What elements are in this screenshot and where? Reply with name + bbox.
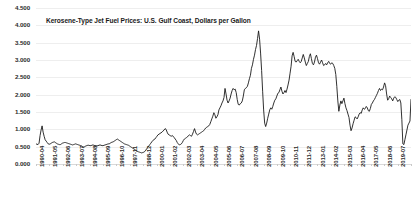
x-axis-tick-label: 2013-01 [320, 146, 326, 167]
y-axis-tick-label: 3.500 [2, 39, 30, 46]
x-axis-tick-label: 2010-11 [293, 146, 299, 167]
y-axis-tick-label: 0.500 [2, 143, 30, 150]
x-axis-tick-mark [371, 164, 372, 166]
x-axis-tick-mark [116, 164, 117, 166]
x-axis-tick-mark [344, 164, 345, 166]
x-axis-tick-label: 1993-07 [79, 146, 85, 167]
x-axis-tick-label: 2018-06 [387, 146, 393, 167]
x-axis-tick-label: 2002-03 [186, 146, 192, 167]
x-axis-tick-mark [49, 164, 50, 166]
x-axis-tick-mark [76, 164, 77, 166]
x-axis-tick-mark [36, 164, 37, 166]
x-axis-tick-label: 2003-04 [199, 146, 205, 167]
x-axis-tick-label: 1997-11 [132, 146, 138, 167]
y-axis-tick-label: 0.000 [2, 160, 30, 167]
jet-fuel-price-chart: 4.5004.0003.5003.0002.5002.0001.5001.000… [0, 0, 413, 216]
x-axis-tick-label: 1991-05 [52, 146, 58, 167]
x-axis-tick-mark [357, 164, 358, 166]
x-axis-tick-mark [143, 164, 144, 166]
y-axis-tick-label: 1.500 [2, 108, 30, 115]
x-axis-tick-label: 2014-02 [333, 146, 339, 167]
x-axis-tick-label: 2019-07 [400, 146, 406, 167]
x-axis-tick-mark [411, 164, 412, 166]
price-line-plot [36, 8, 411, 164]
x-axis-tick-mark [197, 164, 198, 166]
y-axis-tick-label: 4.000 [2, 21, 30, 28]
x-axis-tick-label: 2008-09 [266, 146, 272, 167]
x-axis-tick-mark [277, 164, 278, 166]
y-axis-tick-label: 3.000 [2, 56, 30, 63]
x-axis-tick-mark [317, 164, 318, 166]
x-axis-tick-label: 1998-12 [146, 146, 152, 167]
price-series-line [36, 31, 411, 153]
x-axis-tick-label: 1992-06 [65, 146, 71, 167]
x-axis-tick-mark [250, 164, 251, 166]
x-axis-tick-mark [264, 164, 265, 166]
x-axis-tick-label: 2011-12 [306, 146, 312, 167]
x-axis-tick-label: 2004-05 [213, 146, 219, 167]
x-axis-tick-label: 2017-05 [373, 146, 379, 167]
x-axis-tick-mark [224, 164, 225, 166]
x-axis-tick-label: 1990-04 [39, 146, 45, 167]
x-axis-tick-mark [331, 164, 332, 166]
y-axis-tick-label: 1.000 [2, 125, 30, 132]
x-axis-tick-label: 2007-08 [253, 146, 259, 167]
x-axis-tick-label: 2016-04 [360, 146, 366, 167]
x-axis-tick-mark [103, 164, 104, 166]
x-axis-tick-label: 2001-02 [172, 146, 178, 167]
x-axis-tick-mark [237, 164, 238, 166]
x-axis-tick-label: 2000-01 [159, 146, 165, 167]
x-axis-tick-mark [384, 164, 385, 166]
x-axis-tick-mark [210, 164, 211, 166]
x-axis-tick-mark [90, 164, 91, 166]
x-axis-tick-mark [304, 164, 305, 166]
x-axis-tick-mark [63, 164, 64, 166]
x-axis-tick-label: 1996-10 [119, 146, 125, 167]
x-axis-tick-label: 2009-10 [280, 146, 286, 167]
x-axis-tick-mark [130, 164, 131, 166]
x-axis-tick-mark [290, 164, 291, 166]
x-axis-tick-mark [170, 164, 171, 166]
x-axis-tick-label: 2005-06 [226, 146, 232, 167]
x-axis-tick-label: 2015-03 [347, 146, 353, 167]
x-axis-tick-label: 1995-09 [105, 146, 111, 167]
x-axis-tick-mark [398, 164, 399, 166]
x-axis-tick-mark [183, 164, 184, 166]
y-axis-tick-label: 2.500 [2, 73, 30, 80]
x-axis-tick-mark [157, 164, 158, 166]
y-axis-tick-label: 2.000 [2, 91, 30, 98]
y-axis-tick-label: 4.500 [2, 4, 30, 11]
x-axis-tick-label: 1994-08 [92, 146, 98, 167]
x-axis-tick-label: 2006-07 [239, 146, 245, 167]
